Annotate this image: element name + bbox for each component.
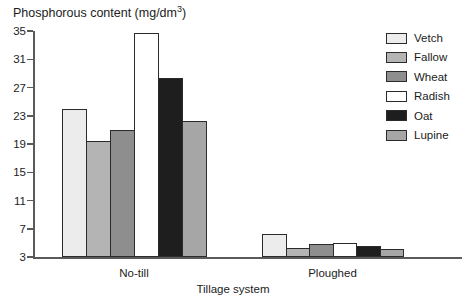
y-tick-label-27: 27 bbox=[0, 81, 26, 95]
bar-oat-no-till bbox=[158, 78, 183, 257]
y-tick-31 bbox=[27, 59, 33, 61]
legend-label-wheat: Wheat bbox=[414, 71, 447, 83]
y-tick-label-35: 35 bbox=[0, 24, 26, 38]
y-tick-3 bbox=[27, 256, 33, 258]
bar-radish-ploughed bbox=[333, 243, 358, 257]
legend-swatch-lupine bbox=[386, 130, 407, 141]
legend-label-oat: Oat bbox=[414, 110, 433, 122]
legend-item-radish: Radish bbox=[386, 89, 450, 103]
legend-item-fallow: Fallow bbox=[386, 50, 447, 64]
bar-lupine-no-till bbox=[182, 121, 207, 257]
bar-vetch-no-till bbox=[62, 109, 87, 257]
legend-label-radish: Radish bbox=[414, 90, 450, 102]
chart-title-suffix: ) bbox=[182, 6, 186, 20]
y-tick-7 bbox=[27, 228, 33, 230]
legend-item-vetch: Vetch bbox=[386, 31, 443, 45]
bar-lupine-ploughed bbox=[380, 249, 405, 257]
bar-fallow-no-till bbox=[86, 141, 111, 257]
y-tick-11 bbox=[27, 200, 33, 202]
legend-swatch-fallow bbox=[386, 52, 407, 63]
y-tick-label-19: 19 bbox=[0, 137, 26, 151]
y-tick-23 bbox=[27, 115, 33, 117]
x-axis-label: Tillage system bbox=[163, 283, 303, 295]
legend-item-lupine: Lupine bbox=[386, 128, 449, 142]
y-tick-label-23: 23 bbox=[0, 109, 26, 123]
chart-title: Phosphorous content (mg/dm3) bbox=[13, 4, 186, 20]
bar-wheat-ploughed bbox=[309, 244, 334, 257]
legend-swatch-wheat bbox=[386, 71, 407, 82]
y-tick-19 bbox=[27, 143, 33, 145]
x-axis bbox=[33, 257, 462, 259]
category-label-ploughed: Ploughed bbox=[288, 267, 378, 279]
bar-vetch-ploughed bbox=[262, 234, 287, 257]
legend-swatch-oat bbox=[386, 110, 407, 121]
legend-item-oat: Oat bbox=[386, 109, 433, 123]
category-label-no-till: No-till bbox=[89, 267, 179, 279]
y-tick-label-11: 11 bbox=[0, 194, 26, 208]
y-tick-label-15: 15 bbox=[0, 165, 26, 179]
y-tick-label-3: 3 bbox=[0, 250, 26, 264]
phosphorous-bar-chart: Phosphorous content (mg/dm3) 37111519232… bbox=[0, 0, 469, 305]
bar-fallow-ploughed bbox=[286, 248, 311, 257]
y-tick-label-7: 7 bbox=[0, 222, 26, 236]
legend-swatch-vetch bbox=[386, 33, 407, 44]
legend-label-vetch: Vetch bbox=[414, 32, 443, 44]
y-tick-27 bbox=[27, 87, 33, 89]
y-axis bbox=[33, 31, 35, 258]
legend-label-fallow: Fallow bbox=[414, 51, 447, 63]
chart-title-text: Phosphorous content (mg/dm bbox=[13, 6, 177, 20]
bar-oat-ploughed bbox=[356, 246, 381, 257]
y-tick-15 bbox=[27, 172, 33, 174]
legend-swatch-radish bbox=[386, 91, 407, 102]
bar-radish-no-till bbox=[134, 33, 159, 257]
legend-item-wheat: Wheat bbox=[386, 70, 447, 84]
bar-wheat-no-till bbox=[110, 130, 135, 257]
legend-label-lupine: Lupine bbox=[414, 129, 449, 141]
y-tick-label-31: 31 bbox=[0, 52, 26, 66]
y-tick-35 bbox=[27, 30, 33, 32]
